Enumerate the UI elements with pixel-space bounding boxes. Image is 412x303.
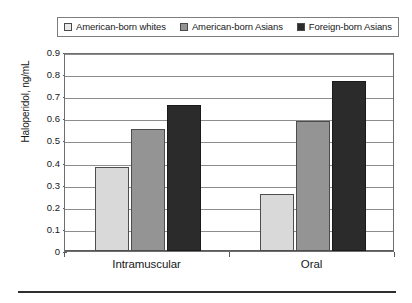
bottom-divider [18, 291, 396, 293]
legend-swatch-icon-american-born-asians [180, 23, 188, 31]
bar-oral-series-1[interactable] [296, 121, 330, 251]
legend-label-american-born-whites: American-born whites [76, 22, 166, 32]
x-tick-mark [229, 252, 230, 257]
y-tick-label: 0.5 [38, 136, 60, 146]
bar-intramuscular-series-0[interactable] [95, 167, 129, 251]
bar-oral-series-0[interactable] [260, 194, 294, 251]
x-axis-label-oral: Oral [242, 258, 382, 270]
legend-item-american-born-asians: American-born Asians [180, 22, 283, 32]
chart-legend: American-born whites American-born Asian… [57, 17, 399, 37]
y-tick-label: 0.8 [38, 70, 60, 80]
legend-item-foreign-born-asians: Foreign-born Asians [297, 22, 392, 32]
legend-swatch-icon-american-born-whites [64, 23, 72, 31]
y-tick-label: 0.7 [38, 92, 60, 102]
bar-intramuscular-series-1[interactable] [131, 129, 165, 251]
x-axis-label-intramuscular: Intramuscular [77, 258, 217, 270]
y-axis: 00.10.20.30.40.50.60.70.80.9 [36, 53, 60, 252]
y-tick-label: 0.2 [38, 203, 60, 213]
legend-item-american-born-whites: American-born whites [64, 22, 166, 32]
x-tick-mark [394, 252, 395, 257]
bar-oral-series-2[interactable] [332, 81, 366, 251]
bar-intramuscular-series-2[interactable] [167, 105, 201, 251]
legend-swatch-icon-foreign-born-asians [297, 23, 305, 31]
y-tick-label: 0 [38, 247, 60, 257]
y-tick-label: 0.4 [38, 159, 60, 169]
x-tick-mark [64, 252, 65, 257]
bar-group-intramuscular [95, 54, 201, 251]
y-axis-title: Haloperidol, ng/mL [20, 32, 31, 172]
legend-label-foreign-born-asians: Foreign-born Asians [309, 22, 392, 32]
bar-group-oral [260, 54, 366, 251]
y-tick-label: 0.6 [38, 114, 60, 124]
legend-label-american-born-asians: American-born Asians [192, 22, 283, 32]
y-tick-label: 0.1 [38, 225, 60, 235]
y-tick-label: 0.3 [38, 181, 60, 191]
plot-area [64, 53, 394, 252]
y-tick-label: 0.9 [38, 48, 60, 58]
plot-inner [65, 54, 393, 251]
